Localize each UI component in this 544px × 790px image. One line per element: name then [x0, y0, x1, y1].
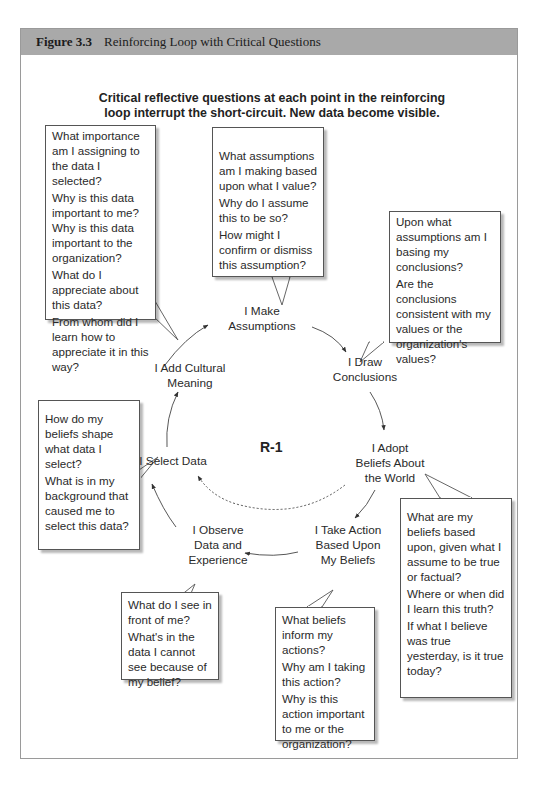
- node-label: My Beliefs: [300, 553, 396, 568]
- question: What is in my background that caused me …: [45, 473, 133, 533]
- callout-make-assumptions: What assumptions am I making based upon …: [212, 127, 324, 277]
- question: Upon what assumptions am I basing my con…: [396, 214, 494, 274]
- question: What are my beliefs based upon, given wh…: [407, 509, 505, 584]
- node-label: I Take Action: [300, 523, 396, 538]
- node-label: I Draw: [320, 355, 410, 370]
- node-label: Conclusions: [320, 370, 410, 385]
- node-label: I Select Data: [132, 454, 214, 469]
- question: What do I appreciate about this data?: [52, 267, 149, 312]
- callout-take-action: What beliefs inform my actions? Why am I…: [275, 607, 375, 741]
- question: Why is this action important to me or th…: [282, 691, 368, 751]
- question: Why am I taking this action?: [282, 659, 368, 689]
- question: What do I see in front of me?: [128, 597, 212, 627]
- node-add-meaning: I Add Cultural Meaning: [140, 361, 240, 391]
- callout-add-meaning: What importance am I assigning to the da…: [45, 125, 156, 320]
- node-label: Assumptions: [212, 319, 312, 334]
- callout-adopt-beliefs: What are my beliefs based upon, given wh…: [400, 498, 512, 698]
- question: How do my beliefs shape what data I sele…: [45, 411, 133, 471]
- node-label: Beliefs About: [340, 456, 440, 471]
- question: How might I confirm or dismiss this assu…: [219, 227, 317, 272]
- node-label: Based Upon: [300, 538, 396, 553]
- question: What importance am I assigning to the da…: [52, 128, 149, 188]
- diagram-subtitle: Critical reflective questions at each po…: [0, 91, 544, 121]
- node-draw-conclusions: I Draw Conclusions: [320, 355, 410, 385]
- figure-header: Figure 3.3 Reinforcing Loop with Critica…: [21, 29, 517, 55]
- node-label: I Adopt: [340, 441, 440, 456]
- question: From whom did I learn how to appreciate …: [52, 314, 149, 374]
- question: Are the conclusions consistent with my v…: [396, 276, 494, 366]
- question: What's in the data I cannot see because …: [128, 629, 212, 689]
- node-take-action: I Take Action Based Upon My Beliefs: [300, 523, 396, 568]
- question: Where or when did I learn this truth?: [407, 586, 505, 616]
- question: If what I believe was true yesterday, is…: [407, 618, 505, 678]
- loop-label: R-1: [260, 439, 283, 455]
- node-label: Data and: [180, 538, 256, 553]
- figure-number: Figure 3.3: [36, 34, 92, 50]
- node-label: Meaning: [140, 376, 240, 391]
- callout-draw-conclusions: Upon what assumptions am I basing my con…: [389, 211, 501, 343]
- question: Why is this data important to me? Why is…: [52, 190, 149, 265]
- node-label: Experience: [180, 553, 256, 568]
- subtitle-line-2: loop interrupt the short-circuit. New da…: [0, 106, 544, 121]
- node-label: I Make: [212, 304, 312, 319]
- question: What assumptions am I making based upon …: [219, 148, 317, 193]
- node-label: I Add Cultural: [140, 361, 240, 376]
- subtitle-line-1: Critical reflective questions at each po…: [0, 91, 544, 106]
- node-make-assumptions: I Make Assumptions: [212, 304, 312, 334]
- callout-select-data: How do my beliefs shape what data I sele…: [38, 400, 140, 550]
- node-observe-data: I Observe Data and Experience: [180, 523, 256, 568]
- question: Why do I assume this to be so?: [219, 195, 317, 225]
- node-adopt-beliefs: I Adopt Beliefs About the World: [340, 441, 440, 486]
- node-select-data: I Select Data: [132, 454, 214, 469]
- question: What beliefs inform my actions?: [282, 612, 368, 657]
- figure-title: Reinforcing Loop with Critical Questions: [104, 34, 321, 50]
- node-label: I Observe: [180, 523, 256, 538]
- node-label: the World: [340, 471, 440, 486]
- callout-observe-data: What do I see in front of me? What's in …: [121, 592, 219, 680]
